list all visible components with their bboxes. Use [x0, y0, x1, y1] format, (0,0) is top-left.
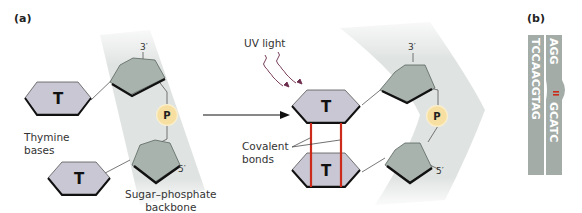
covalent-pointer-lines — [292, 138, 340, 147]
thymine-label-bottom-after: T — [321, 162, 332, 180]
strand-right-bottom-sequence: GCATC — [547, 102, 560, 142]
five-prime-label: 5′ — [178, 164, 186, 174]
panel-a-label: (a) — [14, 12, 31, 25]
phosphate-label: P — [163, 110, 170, 121]
three-prime-label-after: 3′ — [408, 42, 416, 52]
five-prime-label-after: 5′ — [436, 166, 444, 176]
thymine-dimer-diagram: P 3′ 5′ T T — [0, 0, 582, 213]
panel-b-label: (b) — [527, 12, 545, 25]
thymine-base-bottom-before: T — [48, 162, 110, 195]
strand-left-sequence: TCCAACGTAG — [529, 38, 542, 120]
thymine-label-bottom: T — [74, 170, 85, 188]
strand-right-top-sequence: AGG — [547, 38, 560, 65]
uv-light-arrows — [264, 52, 303, 87]
backbone-label: Sugar–phosphate backbone — [125, 188, 217, 213]
dna-strands-panel-b: TCCAACGTAG AGG GCATC — [528, 35, 565, 175]
thymine-base-top-before: T — [25, 82, 91, 115]
thymine-bases-label: Thymine bases — [24, 131, 70, 157]
phosphate-label-after: P — [433, 111, 440, 122]
dimer-bond-2 — [553, 94, 559, 96]
thymine-base-bottom-after: T — [292, 153, 360, 187]
thymine-label-top-after: T — [321, 98, 332, 116]
uv-light-label: UV light — [244, 37, 285, 50]
three-prime-label: 3′ — [140, 42, 148, 52]
phosphate-after: P — [426, 105, 448, 127]
dimer-bond-1 — [553, 91, 559, 93]
thymine-base-top-after: T — [292, 90, 360, 123]
reaction-arrow — [203, 111, 290, 119]
covalent-bonds-label: Covalent bonds — [242, 140, 289, 166]
phosphate-before: P — [156, 104, 178, 126]
thymine-label-top: T — [53, 90, 64, 108]
